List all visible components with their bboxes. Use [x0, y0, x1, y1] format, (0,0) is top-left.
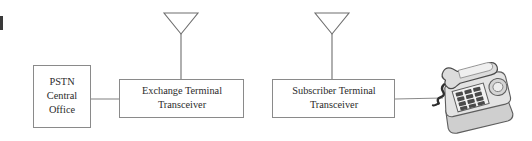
- exchange-label-line-2: Transceiver: [158, 99, 207, 110]
- desk-telephone: [428, 60, 514, 136]
- pstn-label-line-1: PSTN: [49, 76, 75, 87]
- page-edge-mark: [0, 16, 3, 30]
- diagram-canvas: PSTN Central Office Exchange Terminal Tr…: [0, 0, 532, 141]
- pstn-label-line-3: Office: [49, 104, 76, 115]
- exchange-label-line-1: Exchange Terminal: [142, 85, 222, 96]
- pstn-label-line-2: Central: [47, 90, 77, 101]
- subscriber-antenna-dish: [315, 13, 349, 34]
- subscriber-label-line-1: Subscriber Terminal: [292, 85, 376, 96]
- wireless-access-diagram: PSTN Central Office Exchange Terminal Tr…: [0, 0, 532, 141]
- telephone-cord-tail: [433, 103, 439, 105]
- exchange-antenna-dish: [164, 13, 198, 34]
- pstn-central-office-node: PSTN Central Office: [34, 66, 91, 128]
- subscriber-terminal-node: Subscriber Terminal Transceiver: [273, 80, 395, 118]
- exchange-terminal-node: Exchange Terminal Transceiver: [120, 80, 244, 118]
- link-subscriber-to-telephone: [395, 98, 443, 99]
- subscriber-label-line-2: Transceiver: [310, 99, 359, 110]
